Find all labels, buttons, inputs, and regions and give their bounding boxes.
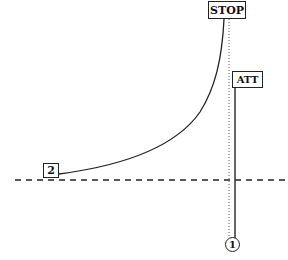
att-label-box: ATT <box>232 71 263 88</box>
stop-label: STOP <box>210 5 244 16</box>
stop-label-box: STOP <box>208 1 246 19</box>
point-2-box: 2 <box>43 163 59 178</box>
point-2-label: 2 <box>47 165 55 176</box>
att-label: ATT <box>237 75 259 85</box>
point-1-label: 1 <box>229 239 236 250</box>
diagram-canvas <box>0 0 288 260</box>
curve-2-to-stop <box>59 19 224 174</box>
point-1-circle: 1 <box>225 237 240 252</box>
